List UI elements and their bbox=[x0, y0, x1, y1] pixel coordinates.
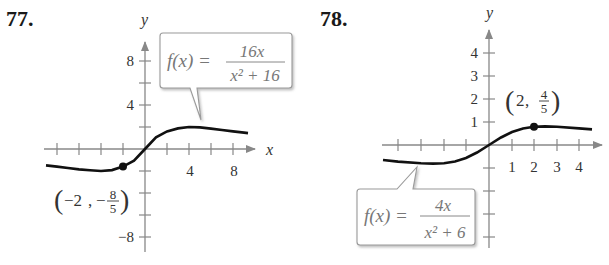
y-tick-1: 1 bbox=[471, 114, 479, 130]
point-label-77: ( −2 , − 8 5 ) bbox=[54, 184, 129, 216]
x-tick-4: 4 bbox=[575, 159, 583, 175]
x-tick-4: 4 bbox=[186, 163, 194, 179]
point-x-78: 2 bbox=[516, 91, 525, 110]
svg-text:8: 8 bbox=[110, 187, 117, 202]
svg-text:5: 5 bbox=[541, 101, 548, 116]
svg-text:−: − bbox=[96, 191, 106, 210]
y-axis-label-78: y bbox=[484, 4, 494, 22]
charts-canvas: x y 4 8 8 4 −8 ( −2 , − 8 5 ) f(x) = 16x… bbox=[0, 0, 609, 265]
point-x-77: −2 bbox=[64, 191, 82, 210]
svg-text:,: , bbox=[525, 91, 529, 110]
y-tick-2: 2 bbox=[471, 91, 479, 107]
function-label-78: f(x) = bbox=[364, 205, 408, 227]
y-tick-4: 4 bbox=[127, 97, 135, 113]
numerator-78: 4x bbox=[435, 196, 452, 215]
point-marker-77 bbox=[119, 163, 127, 171]
x-tick-2: 2 bbox=[530, 159, 538, 175]
svg-text:5: 5 bbox=[110, 201, 117, 216]
x-tick-3: 3 bbox=[553, 159, 561, 175]
svg-text:): ) bbox=[120, 184, 129, 215]
y-tick-8: 8 bbox=[127, 53, 135, 69]
function-label-77: f(x) = bbox=[167, 50, 211, 72]
y-tick-3: 3 bbox=[471, 68, 479, 84]
svg-text:(: ( bbox=[505, 85, 514, 116]
svg-text:4: 4 bbox=[541, 87, 548, 102]
point-marker-78 bbox=[530, 123, 538, 131]
x-tick-8: 8 bbox=[230, 163, 238, 179]
chart-78: y 1 2 3 4 4 3 2 1 ( 2 , 4 5 ) f(x) = 4x … bbox=[357, 4, 602, 248]
y-tick-neg8: −8 bbox=[118, 229, 134, 245]
denominator-77: x² + 16 bbox=[229, 66, 280, 85]
x-tick-1: 1 bbox=[508, 159, 516, 175]
point-label-78: ( 2 , 4 5 ) bbox=[505, 85, 560, 116]
denominator-78: x² + 6 bbox=[423, 223, 466, 242]
svg-text:(: ( bbox=[54, 184, 63, 215]
x-axis-label-77: x bbox=[265, 141, 273, 158]
chart-77: x y 4 8 8 4 −8 ( −2 , − 8 5 ) f(x) = 16x… bbox=[44, 11, 292, 252]
svg-text:,: , bbox=[88, 191, 92, 210]
y-tick-4: 4 bbox=[471, 45, 479, 61]
y-axis-label-77: y bbox=[139, 11, 149, 29]
svg-text:): ) bbox=[551, 85, 560, 116]
numerator-77: 16x bbox=[240, 42, 265, 61]
